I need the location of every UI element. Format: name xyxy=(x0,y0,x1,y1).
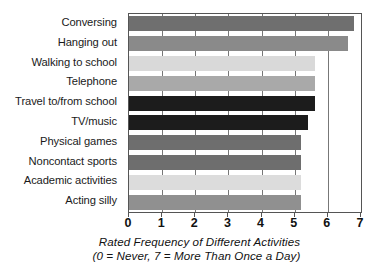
bar-row xyxy=(129,73,361,93)
category-label: Acting silly xyxy=(65,195,117,207)
category-label: Noncontact sports xyxy=(29,156,117,168)
bar xyxy=(129,115,308,130)
bar xyxy=(129,16,354,31)
category-label: Conversing xyxy=(61,17,117,29)
bar-row xyxy=(129,14,361,34)
bar-row xyxy=(129,54,361,74)
tick-label: 0 xyxy=(125,216,132,230)
tick-label: 1 xyxy=(158,216,165,230)
category-label-row: Conversing xyxy=(0,13,122,33)
bar-chart-figure: Conversing Hanging out Walking to school… xyxy=(0,0,375,274)
x-axis-tick-labels: 01234567 xyxy=(128,216,361,232)
bar xyxy=(129,175,301,190)
category-label: Walking to school xyxy=(31,57,117,69)
tick-label: 4 xyxy=(257,216,264,230)
bar-row xyxy=(129,192,361,212)
plot-area xyxy=(128,13,362,213)
category-label: Telephone xyxy=(66,76,117,88)
bar-row xyxy=(129,133,361,153)
category-label-row: Noncontact sports xyxy=(0,152,122,172)
bar xyxy=(129,155,301,170)
bar-row xyxy=(129,172,361,192)
bar-row xyxy=(129,93,361,113)
category-label-row: Telephone xyxy=(0,72,122,92)
bar-row xyxy=(129,153,361,173)
category-label: Travel to/from school xyxy=(15,96,117,108)
figure-caption: Rated Frequency of Different Activities … xyxy=(0,235,375,263)
tick-label: 2 xyxy=(191,216,198,230)
category-label-row: TV/music xyxy=(0,112,122,132)
tick-label: 3 xyxy=(224,216,231,230)
caption-line-2: (0 = Never, 7 = More Than Once a Day) xyxy=(0,249,375,263)
category-label-row: Hanging out xyxy=(0,33,122,53)
bar xyxy=(129,56,315,71)
category-label: Hanging out xyxy=(58,37,117,49)
category-label: Academic activities xyxy=(24,175,117,187)
category-label-row: Physical games xyxy=(0,132,122,152)
bar xyxy=(129,135,301,150)
bar xyxy=(129,195,301,210)
caption-line-1: Rated Frequency of Different Activities xyxy=(0,235,375,249)
category-label-row: Travel to/from school xyxy=(0,92,122,112)
tick-label: 6 xyxy=(323,216,330,230)
category-label-row: Acting silly xyxy=(0,191,122,211)
category-label-row: Academic activities xyxy=(0,171,122,191)
tick-label: 5 xyxy=(290,216,297,230)
category-axis-labels: Conversing Hanging out Walking to school… xyxy=(0,13,122,211)
bar xyxy=(129,76,315,91)
bar xyxy=(129,36,348,51)
category-label: TV/music xyxy=(71,116,117,128)
bar xyxy=(129,96,315,111)
tick-label: 7 xyxy=(357,216,364,230)
category-label-row: Walking to school xyxy=(0,53,122,73)
bar-row xyxy=(129,34,361,54)
bar-row xyxy=(129,113,361,133)
bars-layer xyxy=(129,14,361,212)
category-label: Physical games xyxy=(40,136,117,148)
